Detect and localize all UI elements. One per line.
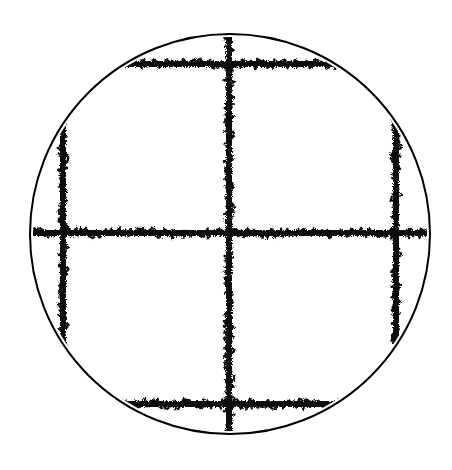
scribble-grid bbox=[30, 34, 430, 435]
circle-grid-drawing bbox=[0, 0, 452, 470]
diagram-canvas bbox=[0, 0, 452, 470]
